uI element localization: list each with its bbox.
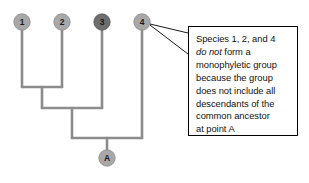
root-label-a: A [104, 153, 110, 163]
callout-line-3: monophyletic group [196, 59, 294, 72]
callout-line-6: descendants of the [196, 98, 294, 111]
tip-label-3: 3 [100, 17, 105, 27]
callout-box: Species 1, 2, and 4do not form amonophyl… [188, 26, 298, 136]
tip-label-1: 1 [20, 17, 25, 27]
callout-line-1: Species 1, 2, and 4 [196, 33, 294, 46]
tip-label-4: 4 [140, 17, 145, 27]
callout-text-plain: descendants of the [196, 98, 274, 109]
callout-text-plain: at point A [196, 123, 235, 134]
callout-text: Species 1, 2, and 4do not form amonophyl… [196, 33, 294, 136]
callout-text-emphasis: do not [196, 46, 222, 57]
callout-line-5: does not include all [196, 85, 294, 98]
root-node-group: A [99, 150, 115, 166]
callout-pointer-group [150, 24, 188, 54]
callout-text-plain: form a [222, 46, 251, 57]
cladogram-figure: 1234 A Species 1, 2, and 4do not form am… [0, 0, 309, 183]
callout-line-7: common ancestor [196, 110, 294, 123]
callout-pointer-stroke-1 [150, 24, 188, 33]
callout-line-4: because the group [196, 72, 294, 85]
tip-label-2: 2 [60, 17, 65, 27]
callout-text-plain: monophyletic group [196, 59, 277, 70]
callout-text-plain: common ancestor [196, 110, 270, 121]
callout-text-plain: because the group [196, 72, 273, 83]
callout-line-8: at point A [196, 123, 294, 136]
branch-lines [22, 30, 142, 150]
callout-pointer-stroke-2 [150, 25, 188, 54]
callout-text-plain: does not include all [196, 85, 275, 96]
tip-nodes: 1234 [14, 14, 150, 30]
callout-text-plain: Species 1, 2, and 4 [196, 33, 275, 44]
callout-line-2: do not form a [196, 46, 294, 59]
